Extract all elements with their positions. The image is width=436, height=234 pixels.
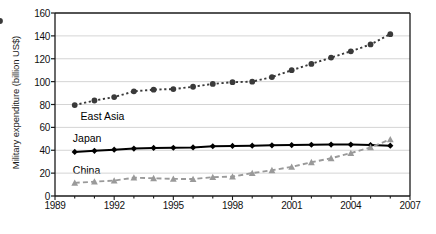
plot-area (0, 0, 436, 234)
data-point-china (387, 136, 394, 142)
data-point-east-asia (151, 87, 157, 93)
data-point-east-asia (190, 84, 196, 90)
data-point-japan (308, 142, 314, 148)
data-point-east-asia (0, 18, 3, 24)
data-point-east-asia (289, 67, 295, 73)
data-point-japan (210, 143, 216, 149)
data-point-japan (289, 142, 295, 148)
data-point-japan (190, 144, 196, 150)
data-point-east-asia (387, 31, 393, 37)
data-point-east-asia (131, 88, 137, 94)
data-point-japan (328, 141, 334, 147)
data-point-east-asia (111, 94, 117, 100)
data-point-east-asia (269, 74, 275, 80)
data-point-east-asia (328, 55, 334, 61)
data-point-japan (72, 149, 78, 155)
data-point-east-asia (368, 42, 374, 48)
series-line-east-asia (75, 34, 391, 105)
data-point-japan (131, 145, 137, 151)
data-point-japan (111, 147, 117, 153)
data-point-east-asia (92, 98, 98, 104)
data-point-east-asia (170, 86, 176, 92)
data-point-east-asia (210, 81, 216, 87)
data-point-japan (249, 143, 255, 149)
data-point-japan (387, 143, 393, 149)
data-point-japan (91, 148, 97, 154)
data-point-east-asia (230, 79, 236, 85)
data-point-east-asia (72, 102, 78, 108)
data-point-japan (229, 143, 235, 149)
data-point-japan (348, 141, 354, 147)
data-point-east-asia (308, 61, 314, 67)
data-point-east-asia (348, 48, 354, 54)
military-expenditure-chart: Military expenditure (billion US$) 02040… (0, 0, 436, 234)
data-point-east-asia (249, 79, 255, 85)
data-point-japan (269, 142, 275, 148)
